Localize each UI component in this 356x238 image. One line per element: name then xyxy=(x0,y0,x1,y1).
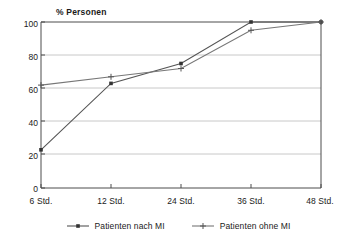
axis-frame xyxy=(41,22,321,188)
line-chart: % Personen 100 80 60 40 20 0 6 Std. 12 S… xyxy=(0,0,356,238)
legend-marker-square-icon xyxy=(66,221,90,231)
series-patienten-ohne-mi xyxy=(38,19,324,88)
legend-entry-patienten-ohne-mi[interactable]: Patienten ohne MI xyxy=(191,221,291,231)
legend-label-patienten-nach-mi: Patienten nach MI xyxy=(95,221,165,231)
x-tick-marks xyxy=(41,184,321,188)
y-tick-marks xyxy=(41,22,45,188)
legend-label-patienten-ohne-mi: Patienten ohne MI xyxy=(220,221,291,231)
series-b-markers xyxy=(38,19,324,88)
chart-legend: Patienten nach MI Patienten ohne MI xyxy=(0,221,356,231)
legend-entry-patienten-nach-mi[interactable]: Patienten nach MI xyxy=(66,221,165,231)
series-patienten-nach-mi xyxy=(39,20,323,151)
plot-area xyxy=(0,0,356,238)
legend-marker-plus-icon xyxy=(191,221,215,231)
series-a-markers xyxy=(39,20,323,151)
